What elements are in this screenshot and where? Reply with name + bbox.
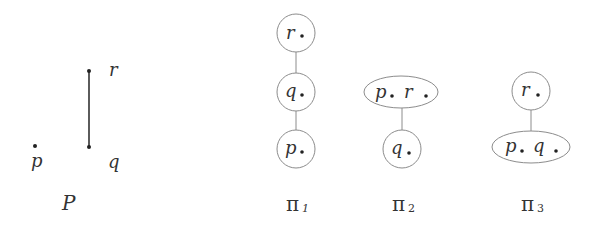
block-r-dot <box>536 93 540 97</box>
element-p-point <box>33 144 37 148</box>
element-r-label: r <box>109 59 119 80</box>
pi2-caption-symbol: π <box>392 192 405 216</box>
poset-title: P <box>61 191 76 215</box>
pi1-caption-subscript: 1 <box>302 202 309 215</box>
block-p-r-dot-r <box>424 94 428 98</box>
partition-pi1: r q p π 1 <box>277 14 315 216</box>
block-p-q-label-q: q <box>533 135 545 156</box>
element-q-label: q <box>108 151 120 172</box>
poset-partition-diagram: p q r P r q p π 1 p r q π 2 <box>0 0 594 226</box>
block-r-label: r <box>286 22 296 43</box>
block-p-dot <box>300 150 304 154</box>
element-p-label: p <box>31 150 43 171</box>
block-r-dot <box>300 34 304 38</box>
block-p-label: p <box>285 137 297 158</box>
block-p-q-label-p: p <box>505 135 517 156</box>
element-r-point <box>87 69 91 73</box>
block-r-label: r <box>521 79 531 100</box>
block-r <box>277 14 315 52</box>
block-p-q-dot-q <box>554 149 558 153</box>
block-p-r-label-p: p <box>375 81 387 102</box>
pi3-caption-subscript: 3 <box>537 202 544 215</box>
pi2-caption-subscript: 2 <box>408 202 415 215</box>
pi1-caption-symbol: π <box>286 192 299 216</box>
block-p-q <box>492 131 570 163</box>
pi3-caption-symbol: π <box>521 192 534 216</box>
block-q-dot <box>300 93 304 97</box>
block-q-label: q <box>285 80 297 101</box>
block-p-r-label-r: r <box>404 81 414 102</box>
partition-pi3: r p q π 3 <box>492 72 570 216</box>
element-q-point <box>87 145 91 149</box>
partition-pi2: p r q π 2 <box>364 76 438 216</box>
block-p-q-dot-p <box>520 149 524 153</box>
poset-p: p q r P <box>31 59 120 215</box>
block-p-r-dot-p <box>390 94 394 98</box>
block-q-label: q <box>391 137 403 158</box>
block-q-dot <box>407 151 411 155</box>
block-r <box>512 72 550 110</box>
